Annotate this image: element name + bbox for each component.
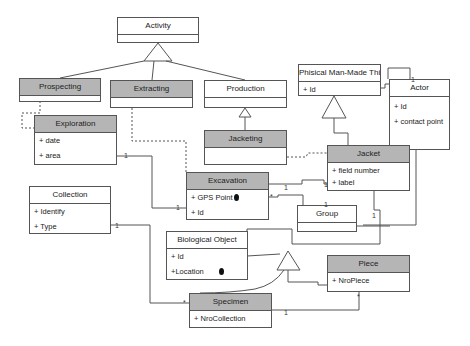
class-physical-man-made-thing[interactable]: Phisical Man-Made Thing + Id xyxy=(298,64,381,96)
class-extracting-title: Extracting xyxy=(111,81,192,98)
attribute-location: +Location xyxy=(167,264,247,279)
multiplicity-label: 1 xyxy=(284,184,288,191)
attribute-date: + date xyxy=(35,133,116,148)
class-specimen[interactable]: Specimen + NroCollection xyxy=(189,293,272,328)
attribute-type: + Type xyxy=(30,219,110,234)
multiplicity-label: 1 xyxy=(124,152,128,159)
generalization-arrow-activity xyxy=(144,43,172,61)
class-prospecting[interactable]: Prospecting xyxy=(19,78,101,102)
attribute-field-number: + field number xyxy=(328,165,409,177)
class-actor[interactable]: Actor + Id + contact point xyxy=(389,79,450,150)
attribute-gps-point-label: + GPS Point xyxy=(191,193,232,202)
generalization-arrow-biological xyxy=(277,251,300,270)
attribute-id: + Id xyxy=(390,99,449,114)
attribute-id: + Id xyxy=(299,82,380,97)
class-excavation[interactable]: Excavation + GPS Point + Id xyxy=(186,172,269,220)
class-group-title: Group xyxy=(298,206,356,223)
multiplicity-label: * xyxy=(357,293,360,300)
multiplicity-label: 1 xyxy=(176,204,180,211)
class-activity[interactable]: Activity xyxy=(117,17,199,43)
class-excavation-title: Excavation xyxy=(187,173,268,190)
multiplicity-label: * xyxy=(183,299,186,306)
class-biological-object[interactable]: Biological Object + Id +Location xyxy=(166,231,248,280)
class-collection[interactable]: Collection + Identify + Type xyxy=(29,186,111,234)
attribute-id: + Id xyxy=(167,249,247,264)
attribute-nro-collection: + NroCollection xyxy=(190,311,271,326)
attribute-gps-point: + GPS Point xyxy=(187,190,268,205)
class-actor-title: Actor xyxy=(390,80,449,97)
point-marker-icon xyxy=(234,194,239,201)
class-extracting[interactable]: Extracting xyxy=(110,80,193,108)
class-jacket[interactable]: Jacket + field number + label xyxy=(327,145,410,191)
class-jacketing-title: Jacketing xyxy=(205,131,286,148)
class-collection-title: Collection xyxy=(30,187,110,204)
multiplicity-label: 1 xyxy=(324,181,328,188)
attribute-id: + Id xyxy=(187,205,268,220)
attribute-label: + label xyxy=(328,177,409,189)
class-group[interactable]: Group xyxy=(297,205,357,232)
class-jacketing[interactable]: Jacketing xyxy=(204,130,287,165)
attribute-area: + area xyxy=(35,148,116,163)
class-activity-title: Activity xyxy=(118,18,198,35)
class-piece-title: Piece xyxy=(328,256,409,273)
class-specimen-title: Specimen xyxy=(190,294,271,311)
class-physical-man-made-thing-title: Phisical Man-Made Thing xyxy=(299,65,380,82)
generalization-arrow-physical-thing xyxy=(322,96,346,118)
multiplicity-label: 1 xyxy=(411,76,415,83)
point-marker-icon xyxy=(219,268,224,275)
class-jacket-title: Jacket xyxy=(328,146,409,163)
attribute-location-label: +Location xyxy=(171,267,204,276)
attribute-nro-piece: + NroPiece xyxy=(328,273,409,288)
multiplicity-label: 1 xyxy=(115,222,119,229)
multiplicity-label: 1 xyxy=(324,201,328,208)
class-exploration[interactable]: Exploration + date + area xyxy=(34,115,117,165)
attribute-identify: + Identify xyxy=(30,204,110,219)
multiplicity-label: * xyxy=(270,193,273,200)
class-production-title: Production xyxy=(205,81,286,98)
attribute-contact-point: + contact point xyxy=(390,114,449,129)
class-prospecting-title: Prospecting xyxy=(20,79,100,96)
generalization-arrow-production xyxy=(239,108,251,117)
class-exploration-title: Exploration xyxy=(35,116,116,133)
class-piece[interactable]: Piece + NroPiece xyxy=(327,255,410,292)
class-production[interactable]: Production xyxy=(204,80,287,108)
multiplicity-label: 1 xyxy=(284,309,288,316)
class-biological-object-title: Biological Object xyxy=(167,232,247,249)
multiplicity-label: 1 xyxy=(372,212,376,219)
